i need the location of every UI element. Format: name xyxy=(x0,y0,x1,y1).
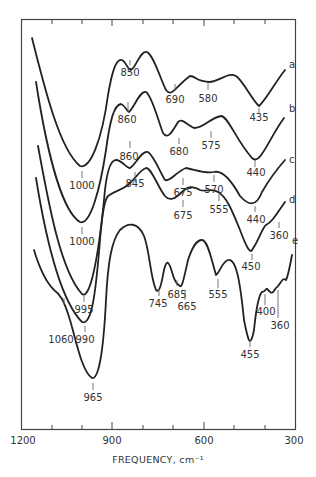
svg-text:440: 440 xyxy=(246,167,265,178)
svg-text:860: 860 xyxy=(119,151,138,162)
svg-text:1060: 1060 xyxy=(48,334,73,345)
svg-text:455: 455 xyxy=(240,349,259,360)
svg-text:990: 990 xyxy=(75,334,94,345)
x-tick-1200: 1200 xyxy=(10,435,35,446)
x-tick-900: 900 xyxy=(102,435,121,446)
x-tick-600: 600 xyxy=(194,435,213,446)
svg-text:360: 360 xyxy=(269,230,288,241)
spectrum-curve-a xyxy=(32,38,285,166)
x-tick-300: 300 xyxy=(284,435,303,446)
bottom-axis-ticks xyxy=(52,422,265,430)
svg-text:555: 555 xyxy=(209,204,228,215)
svg-text:450: 450 xyxy=(241,261,260,272)
svg-text:400: 400 xyxy=(256,306,275,317)
svg-text:860: 860 xyxy=(117,114,136,125)
peak-labels-b: 1000 860 680 575 440 xyxy=(69,102,265,247)
svg-text:685: 685 xyxy=(167,289,186,300)
x-axis-title: FREQUENCY, cm⁻¹ xyxy=(112,454,204,465)
svg-text:690: 690 xyxy=(165,94,184,105)
svg-text:995: 995 xyxy=(74,304,93,315)
svg-text:570: 570 xyxy=(204,184,223,195)
curve-label-c: c xyxy=(289,154,295,165)
svg-text:675: 675 xyxy=(173,187,192,198)
svg-text:440: 440 xyxy=(246,214,265,225)
curve-label-e: e xyxy=(292,235,298,246)
curve-label-d: d xyxy=(289,194,295,205)
svg-text:845: 845 xyxy=(125,178,144,189)
ir-spectra-chart: 1200 900 600 300 FREQUENCY, cm⁻¹ a b c d… xyxy=(0,0,316,477)
svg-text:665: 665 xyxy=(177,301,196,312)
svg-text:850: 850 xyxy=(120,67,139,78)
svg-text:580: 580 xyxy=(198,93,217,104)
svg-text:555: 555 xyxy=(208,289,227,300)
curve-label-b: b xyxy=(289,103,295,114)
svg-text:680: 680 xyxy=(169,146,188,157)
svg-text:1000: 1000 xyxy=(69,236,94,247)
top-axis-ticks xyxy=(52,20,265,27)
svg-text:360: 360 xyxy=(270,320,289,331)
svg-text:575: 575 xyxy=(201,140,220,151)
curve-label-a: a xyxy=(289,59,295,70)
svg-text:1000: 1000 xyxy=(69,180,94,191)
svg-text:745: 745 xyxy=(148,298,167,309)
svg-text:675: 675 xyxy=(173,210,192,221)
svg-text:965: 965 xyxy=(83,392,102,403)
svg-text:435: 435 xyxy=(249,112,268,123)
